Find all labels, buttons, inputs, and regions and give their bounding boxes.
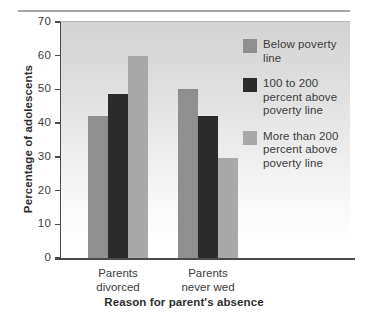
- bar: [218, 158, 238, 258]
- bar: [88, 116, 108, 258]
- bar: [128, 56, 148, 258]
- y-axis-tick-label: 50: [38, 83, 51, 95]
- legend-label-line: Below poverty: [263, 38, 337, 52]
- bar: [198, 116, 218, 258]
- legend-label: 100 to 200percent abovepoverty line: [263, 77, 337, 118]
- legend-label-line: More than 200: [263, 130, 338, 144]
- legend-label: More than 200percent abovepoverty line: [263, 130, 338, 171]
- y-axis-tick-label: 20: [38, 185, 51, 197]
- y-axis-tick-label: 60: [38, 50, 51, 62]
- bar: [178, 89, 198, 258]
- y-axis-tick-label: 70: [38, 16, 51, 28]
- y-axis-title: Percentage of adolescents: [22, 39, 34, 239]
- top-divider-rule: [18, 10, 350, 12]
- chart-legend: Below povertyline100 to 200percent above…: [243, 38, 347, 182]
- legend-label-line: poverty line: [263, 104, 337, 118]
- legend-item: More than 200percent abovepoverty line: [243, 130, 347, 171]
- legend-label-line: percent above: [263, 91, 337, 105]
- y-axis-tick-label: 40: [38, 117, 51, 129]
- x-axis-category-label-line: divorced: [68, 280, 168, 294]
- legend-swatch-icon: [243, 39, 257, 53]
- legend-label: Below povertyline: [263, 38, 337, 65]
- x-axis-baseline: [55, 258, 355, 260]
- y-axis-tick-label: 30: [38, 151, 51, 163]
- bar: [108, 94, 128, 258]
- x-axis-category-label-line: Parents: [158, 266, 258, 280]
- legend-item: 100 to 200percent abovepoverty line: [243, 77, 347, 118]
- legend-swatch-icon: [243, 131, 257, 145]
- y-axis-tick-label: 10: [38, 218, 51, 230]
- y-axis-tick-label: 0: [44, 252, 51, 264]
- x-axis-title: Reason for parent's absence: [0, 296, 368, 308]
- legend-label-line: poverty line: [263, 157, 338, 171]
- x-axis-category-label: Parentsnever wed: [158, 266, 258, 294]
- x-axis-category-label-line: never wed: [158, 280, 258, 294]
- legend-item: Below povertyline: [243, 38, 347, 65]
- x-axis-category-label-line: Parents: [68, 266, 168, 280]
- legend-label-line: 100 to 200: [263, 77, 337, 91]
- legend-label-line: line: [263, 52, 337, 66]
- legend-swatch-icon: [243, 78, 257, 92]
- bar-chart-figure: 010203040506070 Percentage of adolescent…: [0, 0, 368, 314]
- legend-label-line: percent above: [263, 143, 338, 157]
- x-axis-category-label: Parentsdivorced: [68, 266, 168, 294]
